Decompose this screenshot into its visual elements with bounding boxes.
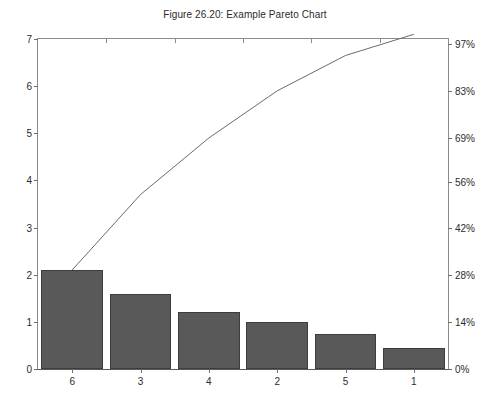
y-axis-right-tick-mark — [448, 369, 452, 370]
y-axis-right-tick-mark — [448, 275, 452, 276]
y-axis-left-tick-label: 0 — [2, 364, 38, 375]
y-axis-left-tick-mark — [34, 39, 38, 40]
y-axis-left-tick-mark — [34, 86, 38, 87]
cumulative-polyline — [72, 34, 414, 270]
x-axis-tick-label: 3 — [138, 376, 144, 387]
x-axis-tick-mark — [414, 369, 415, 373]
top-axis-tick-mark — [243, 39, 244, 43]
y-axis-right-tick-mark — [448, 91, 452, 92]
x-axis-tick-mark — [346, 369, 347, 373]
plot-area: 01234567 0%14%28%42%56%69%83%97% 634251 — [37, 38, 449, 370]
bar — [41, 270, 103, 369]
y-axis-left-tick-label: 4 — [2, 175, 38, 186]
y-axis-left-tick-label: 3 — [2, 222, 38, 233]
y-axis-left-tick-mark — [34, 322, 38, 323]
y-axis-left-tick-mark — [34, 133, 38, 134]
y-axis-left-tick-label: 5 — [2, 128, 38, 139]
x-axis-tick-mark — [277, 369, 278, 373]
y-axis-right-tick-mark — [448, 44, 452, 45]
bar — [178, 312, 240, 369]
y-axis-left-tick-label: 6 — [2, 81, 38, 92]
bar — [110, 294, 172, 369]
y-axis-left-tick-mark — [34, 369, 38, 370]
y-axis-right-tick-label: 56% — [448, 176, 475, 187]
plot-inner: 01234567 0%14%28%42%56%69%83%97% 634251 — [38, 39, 448, 369]
y-axis-right-tick-label: 42% — [448, 223, 475, 234]
y-axis-left-tick-mark — [34, 275, 38, 276]
top-axis-tick-mark — [106, 39, 107, 43]
y-axis-left-tick-label: 7 — [2, 34, 38, 45]
x-axis-tick-mark — [141, 369, 142, 373]
y-axis-left-tick-label: 1 — [2, 316, 38, 327]
y-axis-left-tick-label: 2 — [2, 269, 38, 280]
x-axis-tick-label: 5 — [343, 376, 349, 387]
y-axis-left-tick-mark — [34, 180, 38, 181]
x-axis-tick-label: 2 — [274, 376, 280, 387]
x-axis-tick-label: 6 — [69, 376, 75, 387]
chart-title: Figure 26.20: Example Pareto Chart — [0, 9, 490, 20]
x-axis-tick-label: 1 — [411, 376, 417, 387]
y-axis-right-tick-label: 83% — [448, 86, 475, 97]
y-axis-right-tick-mark — [448, 228, 452, 229]
y-axis-right-tick-mark — [448, 322, 452, 323]
y-axis-right-tick-label: 28% — [448, 270, 475, 281]
x-axis-tick-mark — [72, 369, 73, 373]
top-axis-tick-mark — [175, 39, 176, 43]
top-axis-tick-mark — [311, 39, 312, 43]
y-axis-right-tick-label: 97% — [448, 39, 475, 50]
y-axis-right-tick-label: 69% — [448, 133, 475, 144]
x-axis-tick-label: 4 — [206, 376, 212, 387]
top-axis-tick-mark — [380, 39, 381, 43]
x-axis-tick-mark — [209, 369, 210, 373]
y-axis-left-tick-mark — [34, 228, 38, 229]
bar — [246, 322, 308, 369]
y-axis-right-tick-mark — [448, 182, 452, 183]
pareto-chart-figure: Figure 26.20: Example Pareto Chart 01234… — [0, 0, 490, 405]
y-axis-right-tick-label: 14% — [448, 317, 475, 328]
bar — [383, 348, 445, 369]
y-axis-right-tick-mark — [448, 138, 452, 139]
bar — [315, 334, 377, 369]
